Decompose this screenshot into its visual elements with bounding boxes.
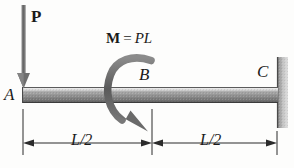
beam-diagram-figure: P M=PL A B C L/2 L/2 <box>0 0 294 168</box>
equals-symbol: = <box>120 30 134 46</box>
moment-magnitude: PL <box>135 30 153 46</box>
moment-symbol: M <box>106 30 120 46</box>
moment-equation-label: M=PL <box>106 31 152 46</box>
beam-member <box>22 87 278 103</box>
node-label-b: B <box>139 66 149 83</box>
dimension-label-right: L/2 <box>200 132 221 148</box>
node-label-c: C <box>257 63 268 80</box>
node-label-a: A <box>4 86 14 103</box>
dimension-label-left: L/2 <box>71 132 92 148</box>
diagram-canvas <box>0 0 294 168</box>
load-label-P: P <box>31 8 41 25</box>
fixed-wall-support <box>277 57 288 128</box>
point-load-arrow <box>17 5 30 89</box>
dimension-lines <box>23 109 277 155</box>
